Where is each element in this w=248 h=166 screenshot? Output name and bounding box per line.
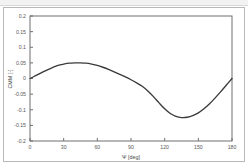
plot-frame (30, 16, 232, 141)
x-tick-label: 150 (194, 144, 203, 150)
x-tick-label: 90 (128, 144, 134, 150)
y-tick-label: 0.15 (16, 29, 26, 35)
y-tick-label: 0 (23, 75, 26, 81)
y-tick-label: -0.05 (14, 91, 26, 97)
y-axis-title: CMM [-] (7, 69, 13, 89)
x-axis-title: Ψ [deg] (122, 154, 140, 160)
x-tick-label: 180 (228, 144, 237, 150)
y-tick-label: 0.2 (19, 13, 26, 19)
figure-container: 0.20.150.10.050-0.05-0.1-0.15-0.2 030609… (0, 0, 248, 166)
y-tick-label: 0.1 (19, 44, 26, 50)
y-tick-label: 0.05 (16, 60, 26, 66)
y-axis-tick-labels: 0.20.150.10.050-0.05-0.1-0.15-0.2 (14, 13, 26, 144)
x-tick-label: 120 (160, 144, 169, 150)
y-tick-label: -0.15 (14, 122, 26, 128)
x-tick-label: 0 (29, 144, 32, 150)
y-tick-label: -0.1 (17, 107, 26, 113)
x-tick-label: 60 (94, 144, 100, 150)
x-tick-label: 30 (61, 144, 67, 150)
y-tick-label: -0.2 (17, 138, 26, 144)
x-axis-tick-labels: 0306090120150180 (29, 144, 237, 150)
data-series-line (30, 63, 232, 118)
chart-canvas: 0.20.150.10.050-0.05-0.1-0.15-0.2 030609… (0, 0, 248, 166)
